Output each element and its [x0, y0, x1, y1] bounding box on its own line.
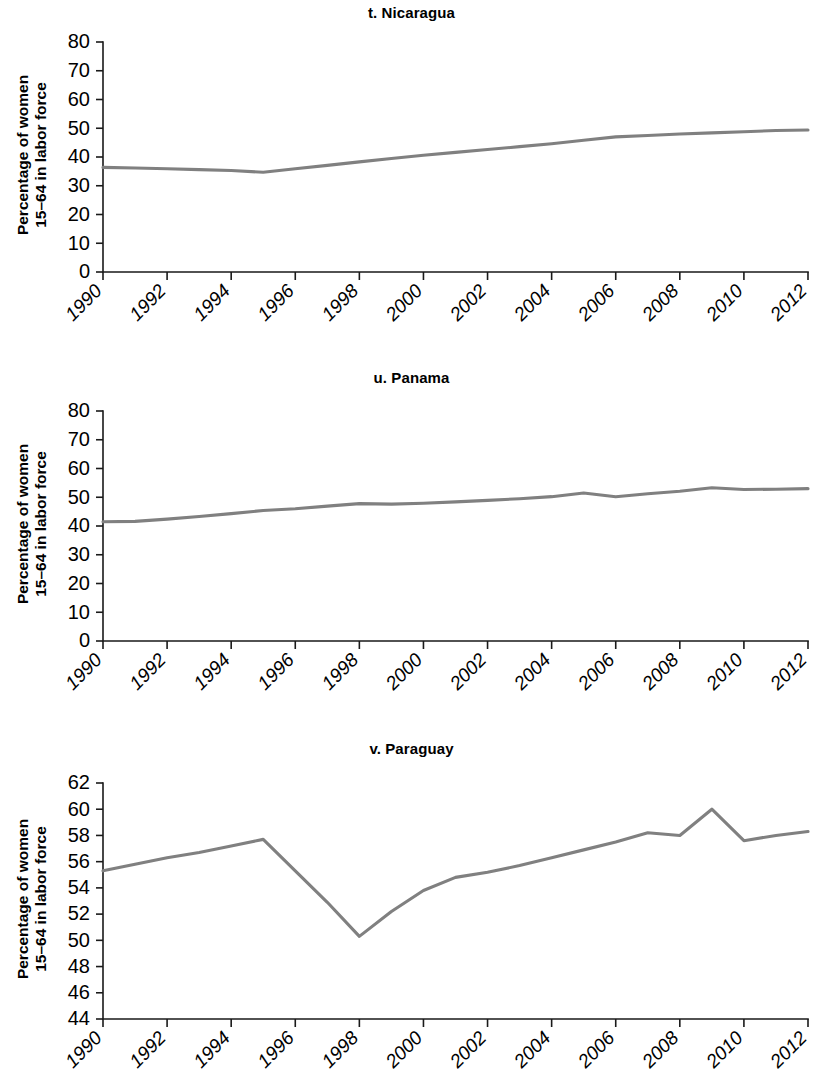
x-tick-label: 1994 — [189, 1027, 234, 1072]
x-tick-label: 2002 — [445, 1027, 491, 1073]
y-tick-label: 58 — [68, 824, 90, 846]
y-tick-label: 70 — [68, 428, 90, 450]
x-tick-label: 1996 — [253, 280, 298, 325]
x-tick-label: 2010 — [701, 649, 747, 695]
y-tick-label: 0 — [79, 260, 90, 282]
x-tick-label: 2002 — [445, 649, 491, 695]
y-tick-label: 70 — [68, 59, 90, 81]
x-tick-label: 2004 — [509, 280, 554, 325]
y-axis-title-line1: Percentage of women — [14, 819, 31, 979]
y-axis-title-line2: 15–64 in labor force — [32, 826, 49, 972]
plot-area-nicaragua: Percentage of women15–64 in labor force0… — [0, 0, 823, 352]
x-tick-label: 1998 — [317, 1027, 362, 1072]
y-tick-label: 56 — [68, 850, 90, 872]
axis-spines — [103, 411, 808, 641]
x-tick-label: 2004 — [509, 649, 554, 694]
data-series-line — [103, 488, 808, 522]
y-axis-title-line2: 15–64 in labor force — [32, 82, 49, 228]
y-tick-label: 60 — [68, 798, 90, 820]
y-tick-label: 60 — [68, 88, 90, 110]
plot-area-paraguay: Percentage of women15–64 in labor force4… — [0, 734, 823, 1078]
x-tick-label: 2010 — [701, 1027, 747, 1073]
y-axis-title: Percentage of women15–64 in labor force — [14, 819, 49, 979]
y-tick-label: 80 — [68, 399, 90, 421]
x-tick-label: 2004 — [509, 1027, 554, 1072]
y-tick-label: 10 — [68, 232, 90, 254]
y-axis-title-line1: Percentage of women — [14, 75, 31, 235]
y-tick-label: 54 — [68, 876, 90, 898]
x-tick-label: 1998 — [317, 649, 362, 694]
x-tick-label: 1992 — [125, 280, 170, 325]
x-tick-label: 1992 — [125, 1027, 170, 1072]
y-tick-label: 50 — [68, 929, 90, 951]
x-tick-label: 2006 — [573, 280, 619, 326]
axis-spines — [103, 42, 808, 272]
y-tick-label: 50 — [68, 486, 90, 508]
figure-page: t. Nicaragua Percentage of women15–64 in… — [0, 0, 823, 1078]
x-tick-label: 2008 — [637, 649, 683, 695]
y-tick-label: 80 — [68, 30, 90, 52]
x-tick-label: 1998 — [317, 280, 362, 325]
x-tick-label: 2012 — [765, 1027, 811, 1073]
y-tick-label: 10 — [68, 601, 90, 623]
x-tick-label: 1990 — [61, 1027, 106, 1072]
y-tick-label: 44 — [68, 1007, 90, 1029]
y-tick-label: 20 — [68, 203, 90, 225]
y-tick-label: 30 — [68, 543, 90, 565]
x-tick-label: 2006 — [573, 1027, 619, 1073]
y-axis-title: Percentage of women15–64 in labor force — [14, 444, 49, 604]
x-tick-label: 2008 — [637, 280, 683, 326]
x-tick-label: 2012 — [765, 649, 811, 695]
x-tick-label: 2008 — [637, 1027, 683, 1073]
y-tick-label: 48 — [68, 955, 90, 977]
chart-panel-panama: u. Panama Percentage of women15–64 in la… — [0, 362, 823, 724]
y-tick-label: 46 — [68, 981, 90, 1003]
x-tick-label: 2010 — [701, 280, 747, 326]
y-tick-label: 40 — [68, 514, 90, 536]
y-tick-label: 0 — [79, 629, 90, 651]
chart-panel-nicaragua: t. Nicaragua Percentage of women15–64 in… — [0, 0, 823, 352]
chart-panel-paraguay: v. Paraguay Percentage of women15–64 in … — [0, 734, 823, 1078]
y-tick-label: 52 — [68, 902, 90, 924]
x-tick-label: 2012 — [765, 280, 811, 326]
y-tick-label: 20 — [68, 572, 90, 594]
x-tick-label: 1994 — [189, 649, 234, 694]
x-tick-label: 1990 — [61, 280, 106, 325]
y-tick-label: 50 — [68, 117, 90, 139]
x-tick-label: 1996 — [253, 1027, 298, 1072]
x-tick-label: 1992 — [125, 649, 170, 694]
y-tick-label: 40 — [68, 145, 90, 167]
x-tick-label: 2002 — [445, 280, 491, 326]
y-tick-label: 60 — [68, 457, 90, 479]
data-series-line — [103, 130, 808, 172]
plot-area-panama: Percentage of women15–64 in labor force0… — [0, 362, 823, 724]
data-series-line — [103, 809, 808, 936]
y-axis-title-line1: Percentage of women — [14, 444, 31, 604]
x-tick-label: 1996 — [253, 649, 298, 694]
x-tick-label: 1990 — [61, 649, 106, 694]
y-tick-label: 62 — [68, 771, 90, 793]
x-tick-label: 2000 — [381, 1027, 427, 1073]
x-tick-label: 1994 — [189, 280, 234, 325]
x-tick-label: 2000 — [381, 649, 427, 695]
y-axis-title-line2: 15–64 in labor force — [32, 451, 49, 597]
x-tick-label: 2006 — [573, 649, 619, 695]
y-axis-title: Percentage of women15–64 in labor force — [14, 75, 49, 235]
y-tick-label: 30 — [68, 174, 90, 196]
x-tick-label: 2000 — [381, 280, 427, 326]
